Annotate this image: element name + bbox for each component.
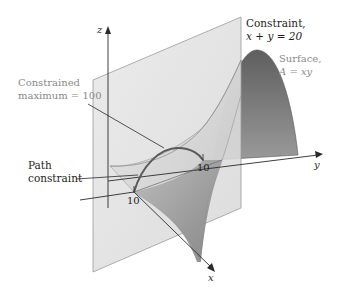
x-tick-label: 10	[127, 195, 140, 206]
path-label-line1: Path	[28, 159, 52, 171]
x-axis-label: x	[208, 272, 214, 283]
z-axis-label: z	[96, 24, 103, 35]
constraint-label-line1: Constraint,	[246, 17, 306, 29]
max-label-line1: Constrained	[18, 77, 81, 88]
surface-label-line1: Surface,	[279, 53, 321, 64]
y-axis-label: y	[313, 159, 320, 170]
constrained-optimization-diagram: z y x 10 10 Constraint, x + y = 20 Surfa…	[0, 0, 340, 294]
surface-label-line2: A = xy	[278, 66, 313, 77]
max-label-line2: maximum = 100	[18, 90, 102, 101]
y-axis-arrow-icon	[315, 151, 323, 158]
constraint-label-line2: x + y = 20	[246, 30, 302, 42]
path-label-line2: constraint	[28, 172, 83, 184]
y-tick-label: 10	[197, 162, 210, 173]
z-axis-arrow-icon	[105, 26, 111, 34]
